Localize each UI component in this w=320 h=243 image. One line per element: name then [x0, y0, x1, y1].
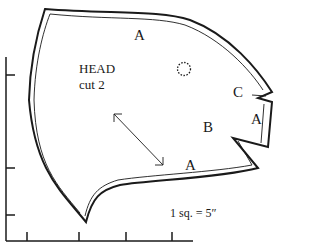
cut-instruction: cut 2 [79, 77, 105, 92]
piece-name: HEAD [79, 61, 115, 76]
marker-c: C [233, 85, 243, 100]
grainline-arrow [114, 114, 163, 165]
eye-placement-circle [178, 63, 191, 76]
marker-a-right: A [251, 112, 262, 127]
scale-note: 1 sq. = 5″ [170, 206, 216, 221]
marker-b: B [203, 120, 213, 135]
marker-a-bottom: A [185, 158, 196, 173]
marker-a-top: A [134, 28, 145, 43]
cutting-line [29, 9, 272, 222]
